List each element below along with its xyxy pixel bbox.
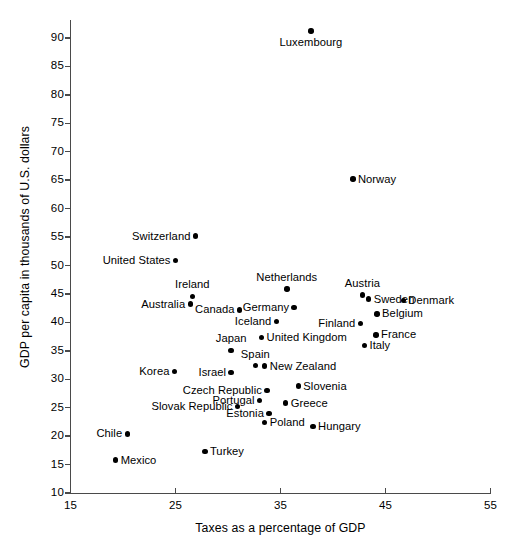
scatter-point (264, 388, 269, 393)
scatter-point-label: Chile (0, 428, 122, 439)
x-tick-label: 15 (56, 500, 86, 512)
y-axis-title: GDP per capita in thousands of U.S. doll… (18, 77, 32, 417)
x-tick-mark (175, 488, 176, 493)
scatter-point-label: Canada (0, 304, 235, 315)
x-tick-mark (385, 488, 386, 493)
scatter-point-label: Japan (161, 333, 301, 344)
y-tick-label: 10 (40, 487, 64, 499)
scatter-point-label: Slovenia (303, 381, 346, 392)
scatter-point-label: Hungary (318, 421, 361, 432)
scatter-point (374, 311, 379, 316)
scatter-point-label: Israel (0, 367, 226, 378)
scatter-point (237, 307, 242, 312)
x-tick-label: 55 (476, 500, 506, 512)
scatter-point-label: Turkey (210, 446, 244, 457)
scatter-point-label: Italy (370, 340, 391, 351)
scatter-point (360, 292, 365, 297)
y-tick-mark (65, 464, 70, 465)
y-tick-label: 85 (40, 60, 64, 72)
scatter-point (308, 28, 313, 33)
scatter-point-label: Luxembourg (241, 37, 381, 48)
scatter-point (283, 400, 288, 405)
scatter-point (113, 457, 118, 462)
y-tick-mark (65, 379, 70, 380)
scatter-point (173, 258, 178, 263)
y-tick-label: 80 (40, 89, 64, 101)
y-tick-label: 75 (40, 117, 64, 129)
scatter-point-label: Estonia (0, 408, 264, 419)
x-tick-label: 35 (266, 500, 296, 512)
scatter-point (362, 343, 367, 348)
y-tick-mark (65, 123, 70, 124)
y-tick-mark (65, 350, 70, 351)
x-tick-label: 25 (161, 500, 191, 512)
y-tick-mark (65, 94, 70, 95)
y-tick-label: 15 (40, 459, 64, 471)
scatter-point (350, 176, 355, 181)
scatter-point (296, 383, 301, 388)
y-tick-mark (65, 66, 70, 67)
scatter-point (358, 321, 363, 326)
scatter-point (202, 449, 207, 454)
scatter-point (125, 431, 130, 436)
scatter-point (366, 296, 371, 301)
x-tick-mark (70, 488, 71, 493)
x-tick-label: 45 (371, 500, 401, 512)
scatter-point-label: Denmark (408, 295, 454, 306)
scatter-plot-figure: 1015202530354045505560657075808590 15253… (0, 0, 506, 551)
y-tick-mark (65, 37, 70, 38)
scatter-point-label: New Zealand (270, 361, 336, 372)
x-tick-mark (280, 488, 281, 493)
scatter-point (190, 294, 195, 299)
scatter-point-label: Belgium (382, 308, 423, 319)
y-tick-mark (65, 179, 70, 180)
scatter-point-label: Poland (270, 417, 305, 428)
scatter-point (291, 305, 296, 310)
scatter-point-label: Finland (0, 318, 355, 329)
scatter-point (193, 233, 198, 238)
scatter-point-label: Norway (358, 174, 396, 185)
scatter-point-label: Spain (185, 349, 325, 360)
x-tick-mark (490, 488, 491, 493)
scatter-point (253, 363, 258, 368)
scatter-point (257, 398, 262, 403)
y-tick-label: 70 (40, 146, 64, 158)
scatter-point (284, 286, 289, 291)
scatter-point (373, 332, 378, 337)
y-tick-label: 45 (40, 288, 64, 300)
scatter-point (228, 370, 233, 375)
scatter-point (310, 424, 315, 429)
scatter-point-label: Austria (292, 278, 432, 289)
y-tick-mark (65, 151, 70, 152)
scatter-point-label: Greece (291, 398, 328, 409)
scatter-point-label: Mexico (121, 455, 157, 466)
y-tick-mark (65, 293, 70, 294)
scatter-point (401, 298, 406, 303)
scatter-point (262, 420, 267, 425)
y-tick-label: 35 (40, 345, 64, 357)
y-tick-label: 90 (40, 32, 64, 44)
y-tick-label: 65 (40, 174, 64, 186)
y-tick-mark (65, 208, 70, 209)
scatter-point (262, 363, 267, 368)
scatter-point-label: Ireland (122, 279, 262, 290)
x-axis-title: Taxes as a percentage of GDP (70, 521, 491, 535)
y-tick-label: 60 (40, 203, 64, 215)
